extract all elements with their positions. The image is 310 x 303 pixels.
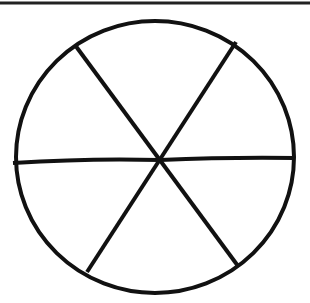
horizontal-divider [13, 158, 295, 163]
circle-diagram [0, 0, 310, 303]
